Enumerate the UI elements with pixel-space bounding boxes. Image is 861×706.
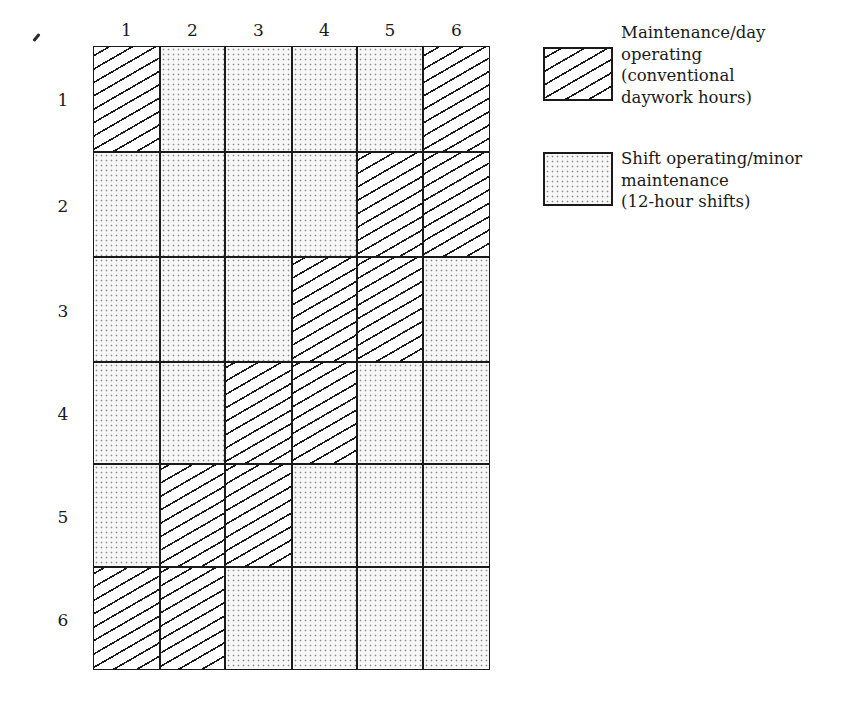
grid-cell-r2-c3 <box>225 152 292 257</box>
row-label-3: 3 <box>48 302 78 320</box>
grid-cell-r6-c1 <box>93 567 160 670</box>
legend-label-shift: Shift operating/minor maintenance (12-ho… <box>621 148 802 213</box>
row-label-5: 5 <box>48 508 78 526</box>
grid-cell-r2-c4 <box>292 152 357 257</box>
stray-pen-mark <box>32 33 40 42</box>
grid-cell-r3-c2 <box>160 257 225 362</box>
grid-cell-r5-c1 <box>93 464 160 567</box>
grid-cell-r3-c6 <box>423 257 490 362</box>
column-label-3: 3 <box>244 21 274 39</box>
row-label-4: 4 <box>48 405 78 423</box>
legend-swatch-hatched <box>543 47 613 101</box>
grid-cell-r6-c6 <box>423 567 490 670</box>
grid-cell-r4-c1 <box>93 362 160 464</box>
grid-cell-r1-c1 <box>93 46 160 152</box>
column-label-1: 1 <box>112 21 142 39</box>
grid-cell-r4-c5 <box>357 362 423 464</box>
grid-cell-r2-c5 <box>357 152 423 257</box>
column-label-2: 2 <box>178 21 208 39</box>
grid-cell-r2-c6 <box>423 152 490 257</box>
grid-cell-r4-c3 <box>225 362 292 464</box>
grid-cell-r1-c5 <box>357 46 423 152</box>
grid-cell-r6-c4 <box>292 567 357 670</box>
grid-cell-r6-c3 <box>225 567 292 670</box>
grid-cell-r1-c2 <box>160 46 225 152</box>
row-label-1: 1 <box>48 91 78 109</box>
rotation-grid <box>93 46 490 670</box>
column-label-6: 6 <box>442 21 472 39</box>
row-label-6: 6 <box>48 611 78 629</box>
grid-cell-r5-c3 <box>225 464 292 567</box>
grid-cell-r2-c1 <box>93 152 160 257</box>
legend-swatch-dotted <box>543 152 613 206</box>
grid-cell-r4-c4 <box>292 362 357 464</box>
grid-cell-r5-c2 <box>160 464 225 567</box>
grid-cell-r5-c4 <box>292 464 357 567</box>
grid-cell-r3-c1 <box>93 257 160 362</box>
column-label-5: 5 <box>375 21 405 39</box>
grid-cell-r1-c4 <box>292 46 357 152</box>
grid-cell-r6-c2 <box>160 567 225 670</box>
grid-cell-r3-c4 <box>292 257 357 362</box>
grid-cell-r5-c5 <box>357 464 423 567</box>
row-label-2: 2 <box>48 197 78 215</box>
grid-cell-r5-c6 <box>423 464 490 567</box>
grid-cell-r4-c2 <box>160 362 225 464</box>
column-label-4: 4 <box>310 21 340 39</box>
legend-label-maintenance: Maintenance/day operating (conventional … <box>621 22 765 108</box>
grid-cell-r2-c2 <box>160 152 225 257</box>
grid-cell-r1-c6 <box>423 46 490 152</box>
grid-cell-r3-c3 <box>225 257 292 362</box>
figure-caption-clipped: —————————————— <box>0 700 861 706</box>
grid-cell-r4-c6 <box>423 362 490 464</box>
grid-cell-r3-c5 <box>357 257 423 362</box>
grid-cell-r6-c5 <box>357 567 423 670</box>
grid-cell-r1-c3 <box>225 46 292 152</box>
